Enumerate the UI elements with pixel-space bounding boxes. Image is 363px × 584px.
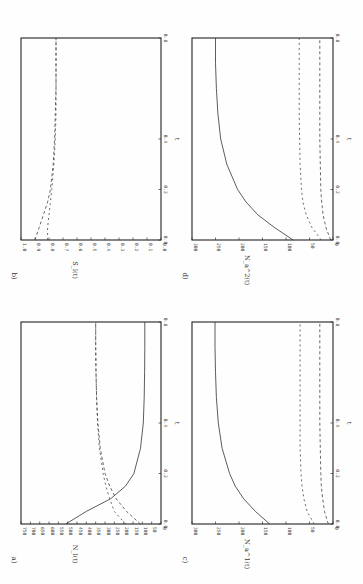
series-line-solid [215, 322, 270, 524]
series-line-dashed-2 [48, 38, 56, 240]
y-tick-label: 0.4 [106, 243, 111, 252]
x-tick-label: 0.0 [335, 520, 340, 529]
y-tick-label: 450 [78, 527, 83, 536]
series-line-dashed-2 [96, 322, 141, 524]
y-tick-label: 50 [152, 527, 157, 533]
series-line-solid [66, 322, 145, 524]
y-tick-label: 1.0 [22, 243, 27, 252]
y-tick-label: 100 [287, 527, 292, 536]
x-axis-label: t [345, 138, 353, 141]
y-tick-label: 0.1 [148, 243, 153, 252]
y-tick-label: 50 [310, 527, 315, 533]
x-axis-label: t [173, 138, 181, 141]
x-axis-label: t [173, 422, 181, 425]
y-tick-label: 0.9 [36, 243, 41, 252]
y-tick-label: 550 [59, 527, 64, 536]
y-tick-label: 0.7 [64, 243, 69, 252]
y-axis-label: N_l(t) [71, 545, 79, 564]
series-line-solid [216, 38, 294, 240]
y-tick-label: 700 [31, 527, 36, 536]
y-tick-label: 250 [115, 527, 120, 536]
x-axis-label: t [345, 422, 353, 425]
x-tick-label: 0.0 [163, 520, 168, 529]
x-tick-label: 0.4 [335, 419, 340, 428]
y-tick-label: 0.8 [50, 243, 55, 252]
y-axis-label: N_a^2(t) [243, 255, 251, 286]
y-tick-label: 750 [22, 527, 27, 536]
y-tick-label: 0.3 [120, 243, 125, 252]
chart-panel-b: 0.00.10.20.30.40.50.60.70.80.91.00.00.20… [10, 34, 181, 280]
plot-frame [21, 38, 161, 240]
series-line-dashed-1 [300, 322, 314, 524]
y-tick-label: 150 [134, 527, 139, 536]
series-line-dashed-2 [320, 322, 329, 524]
y-tick-label: 100 [287, 243, 292, 252]
figure-page: 0501001502002503003504004505005506006507… [0, 0, 363, 584]
x-tick-label: 0.4 [163, 419, 168, 428]
y-tick-label: 500 [68, 527, 73, 536]
y-tick-label: 400 [87, 527, 92, 536]
panel-label: a) [10, 557, 18, 564]
series-line-dashed-1 [96, 322, 126, 524]
y-tick-label: 0.2 [134, 243, 139, 252]
plot-frame [192, 38, 333, 240]
y-tick-label: 200 [124, 527, 129, 536]
x-tick-label: 0.8 [335, 34, 340, 43]
x-tick-label: 0.4 [163, 135, 168, 144]
y-tick-label: 200 [240, 527, 245, 536]
y-tick-label: 300 [106, 527, 111, 536]
x-tick-label: 0.2 [163, 185, 168, 194]
series-line-dashed-1 [299, 38, 321, 240]
panel-label: b) [10, 272, 18, 279]
x-tick-label: 0.2 [335, 185, 340, 194]
y-tick-label: 350 [96, 527, 101, 536]
chart-panel-c: 0501001502002503000.00.20.40.8tN_a^1(t)c… [181, 318, 353, 570]
x-tick-label: 0.8 [163, 318, 168, 327]
panel-label: c) [181, 557, 189, 564]
panel-label: d) [181, 272, 189, 279]
y-tick-label: 300 [193, 527, 198, 536]
plot-frame [21, 322, 161, 524]
x-tick-label: 0.2 [163, 469, 168, 478]
y-tick-label: 0.0 [162, 243, 167, 252]
y-tick-label: 50 [310, 243, 315, 249]
y-axis-label: S_l(t) [71, 261, 79, 279]
y-tick-label: 300 [193, 243, 198, 252]
y-axis-label: N_a^1(t) [243, 539, 251, 570]
figure-canvas: 0501001502002503003504004505005506006507… [0, 0, 363, 584]
x-tick-label: 0.0 [163, 236, 168, 245]
y-tick-label: 600 [50, 527, 55, 536]
x-tick-label: 0.2 [335, 469, 340, 478]
y-tick-label: 0.6 [78, 243, 83, 252]
y-tick-label: 150 [263, 527, 268, 536]
chart-panel-d: 0501001502002503000.00.20.40.8tN_a^2(t)d… [181, 34, 353, 286]
x-tick-label: 0.8 [163, 34, 168, 43]
x-tick-label: 0.4 [335, 135, 340, 144]
y-tick-label: 250 [216, 527, 221, 536]
plot-frame [192, 322, 333, 524]
x-tick-label: 0.8 [335, 318, 340, 327]
chart-panel-a: 0501001502002503003504004505005506006507… [10, 318, 181, 564]
series-line-dashed-1 [35, 38, 56, 240]
y-tick-label: 650 [40, 527, 45, 536]
y-tick-label: 200 [240, 243, 245, 252]
y-tick-label: 100 [143, 527, 148, 536]
series-line-dashed-2 [320, 38, 331, 240]
y-tick-label: 150 [263, 243, 268, 252]
x-tick-label: 0.0 [335, 236, 340, 245]
y-tick-label: 250 [216, 243, 221, 252]
y-tick-label: 0.5 [92, 243, 97, 252]
